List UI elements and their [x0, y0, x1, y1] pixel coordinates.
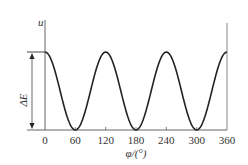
- x-tick-label: 120: [97, 134, 114, 146]
- energy-curve-chart: u ΔE 060120180240300360 φ/(°): [0, 0, 248, 165]
- x-tick-label: 300: [188, 134, 205, 146]
- x-tick-label: 240: [158, 134, 175, 146]
- x-tick-label: 0: [42, 134, 48, 146]
- delta-e-label: ΔE: [17, 93, 29, 107]
- y-axis-label: u: [38, 16, 44, 28]
- x-axis-label: φ/(°): [126, 147, 147, 160]
- arrow-up-icon: [30, 53, 35, 59]
- x-tick-label: 60: [70, 134, 82, 146]
- energy-curve: [45, 52, 227, 130]
- x-tick-label: 180: [128, 134, 145, 146]
- x-tick-label: 360: [219, 134, 236, 146]
- x-tick-labels: 060120180240300360: [42, 134, 236, 146]
- arrow-down-icon: [30, 123, 35, 129]
